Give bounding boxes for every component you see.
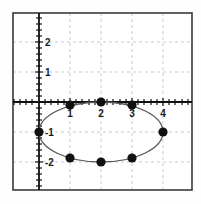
y-tick-label-neg1: -1 bbox=[45, 127, 54, 138]
data-point bbox=[96, 97, 105, 106]
y-tick-label-neg2: -2 bbox=[45, 157, 54, 168]
data-point bbox=[96, 157, 105, 166]
data-point bbox=[34, 127, 43, 136]
data-point bbox=[65, 153, 74, 162]
x-tick-label-1: 1 bbox=[67, 108, 73, 119]
x-tick-label-3: 3 bbox=[129, 108, 135, 119]
coordinate-plot: 1 2 3 4 2 1 -1 -2 bbox=[0, 0, 201, 204]
x-tick-label-4: 4 bbox=[160, 108, 166, 119]
y-tick-label-2: 2 bbox=[45, 37, 51, 48]
x-tick-label-2: 2 bbox=[98, 108, 104, 119]
chart-figure: 1 2 3 4 2 1 -1 -2 bbox=[0, 0, 201, 204]
y-tick-label-1: 1 bbox=[45, 67, 51, 78]
data-point bbox=[127, 153, 136, 162]
data-point bbox=[158, 127, 167, 136]
